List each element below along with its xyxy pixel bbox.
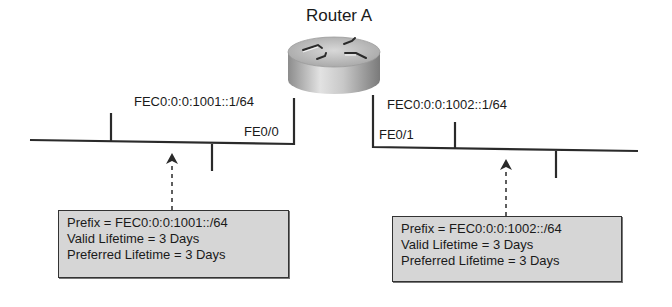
left-prefix: Prefix = FEC0:0:0:1001::/64 (67, 215, 280, 231)
right-valid-lifetime: Valid Lifetime = 3 Days (401, 237, 613, 253)
fe0-0-interface-label: FE0/0 (244, 124, 279, 139)
right-prefix-box: Prefix = FEC0:0:0:1002::/64 Valid Lifeti… (392, 216, 622, 282)
fe0-1-address: FEC0:0:0:1002::1/64 (387, 97, 507, 112)
left-prefix-box: Prefix = FEC0:0:0:1001::/64 Valid Lifeti… (58, 210, 289, 278)
left-preferred-lifetime: Preferred Lifetime = 3 Days (67, 247, 280, 263)
right-prefix: Prefix = FEC0:0:0:1002::/64 (401, 221, 613, 237)
left-ra-arrow (166, 153, 178, 210)
router-name: Router A (306, 6, 372, 26)
fe0-1-interface-label: FE0/1 (379, 127, 414, 142)
left-valid-lifetime: Valid Lifetime = 3 Days (67, 231, 280, 247)
right-ra-arrow (500, 159, 512, 216)
right-preferred-lifetime: Preferred Lifetime = 3 Days (401, 253, 613, 269)
fe0-0-address: FEC0:0:0:1001::1/64 (134, 94, 254, 109)
router-icon (288, 37, 380, 94)
